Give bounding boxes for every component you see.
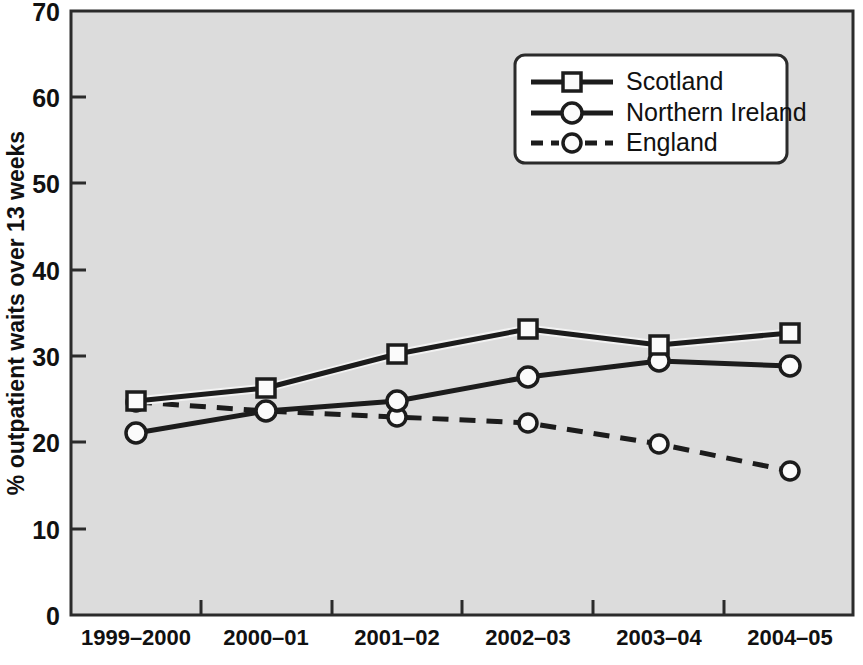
y-axis-title: % outpatient waits over 13 weeks [3, 131, 29, 495]
y-tick-label-20: 20 [32, 429, 60, 457]
scotland-marker [519, 320, 537, 338]
scotland-marker [650, 336, 668, 354]
y-tick-label-60: 60 [32, 84, 60, 112]
legend-marker-scotland [563, 73, 581, 91]
legend-entry-northern-ireland[interactable]: Northern Ireland [531, 98, 807, 126]
x-tick-label-2: 2000–01 [223, 625, 309, 650]
y-tick-label-10: 10 [32, 516, 60, 544]
northern-ireland-marker [518, 367, 538, 387]
x-tick-label-1: 1999–2000 [81, 625, 191, 650]
scotland-marker [388, 345, 406, 363]
chart-legend: Scotland Northern Ireland England [515, 55, 807, 163]
legend-label-scotland: Scotland [626, 67, 723, 95]
line-chart: 70 60 50 40 30 20 10 0 1999–2000 2000–01… [0, 0, 863, 665]
y-tick-label-50: 50 [32, 170, 60, 198]
chart-figure: 70 60 50 40 30 20 10 0 1999–2000 2000–01… [0, 0, 863, 665]
scotland-marker [127, 392, 145, 410]
y-tick-label-30: 30 [32, 343, 60, 371]
y-tick-label-40: 40 [32, 257, 60, 285]
northern-ireland-marker [387, 391, 407, 411]
northern-ireland-marker [126, 423, 146, 443]
legend-marker-england [563, 134, 581, 152]
legend-label-england: England [626, 128, 718, 156]
x-tick-label-3: 2001–02 [354, 625, 440, 650]
x-tick-label-4: 2002–03 [485, 625, 571, 650]
england-marker [519, 414, 537, 432]
northern-ireland-marker [256, 401, 276, 421]
x-axis-tick-labels: 1999–2000 2000–01 2001–02 2002–03 2003–0… [81, 625, 833, 650]
england-marker [650, 435, 668, 453]
scotland-marker [257, 379, 275, 397]
x-tick-label-6: 2004–05 [747, 625, 833, 650]
england-marker [781, 462, 799, 480]
scotland-marker [781, 324, 799, 342]
x-tick-label-5: 2003–04 [616, 625, 702, 650]
northern-ireland-marker [780, 356, 800, 376]
y-tick-label-0: 0 [46, 602, 60, 630]
y-axis-tick-labels: 70 60 50 40 30 20 10 0 [32, 0, 60, 630]
y-tick-label-70: 70 [32, 0, 60, 26]
legend-label-northern-ireland: Northern Ireland [626, 98, 807, 126]
legend-marker-northern-ireland [562, 103, 582, 123]
